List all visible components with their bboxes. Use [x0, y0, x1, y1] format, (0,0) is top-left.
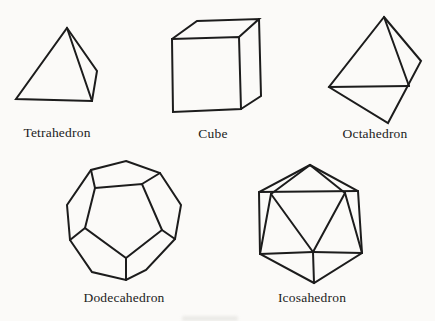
- scanned-figure-page: Tetrahedron Cube Octahedron Dodecahedron…: [0, 0, 435, 321]
- label-cube: Cube: [198, 127, 227, 141]
- label-dodecahedron: Dodecahedron: [83, 291, 164, 305]
- label-octahedron: Octahedron: [343, 127, 408, 141]
- paper-background: [0, 0, 435, 321]
- cropped-caption-fragment: [182, 316, 238, 321]
- platonic-solids-figure: [0, 0, 435, 321]
- label-tetrahedron: Tetrahedron: [23, 126, 90, 140]
- label-icosahedron: Icosahedron: [278, 291, 346, 305]
